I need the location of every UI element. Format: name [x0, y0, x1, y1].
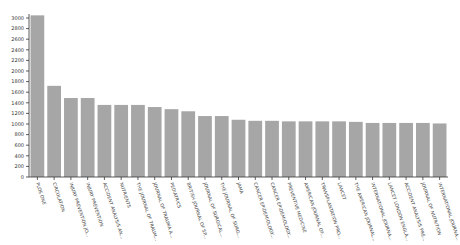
- x-tick-label: PLOS ONE: [35, 182, 47, 206]
- y-tick-label: 1000: [11, 121, 24, 127]
- bar[interactable]: [215, 116, 229, 177]
- bar[interactable]: [433, 123, 447, 177]
- bar[interactable]: [31, 15, 45, 177]
- bar[interactable]: [181, 111, 195, 177]
- bar[interactable]: [382, 123, 396, 177]
- x-axis: PLOS ONECIRCULATIONINJURY PREVENTION JO.…: [29, 177, 460, 242]
- y-tick-label: 800: [14, 131, 24, 137]
- y-tick-label: 1400: [11, 100, 24, 106]
- y-tick-label: 0: [21, 174, 24, 180]
- bars: [31, 15, 447, 177]
- bar[interactable]: [399, 123, 413, 177]
- y-tick-label: 1600: [11, 89, 24, 95]
- bar[interactable]: [232, 120, 246, 177]
- x-tick-label: JAMA: [236, 181, 245, 195]
- bar[interactable]: [131, 105, 145, 177]
- x-tick-label: CIRCULATION: [52, 182, 66, 213]
- bar[interactable]: [282, 121, 296, 177]
- bar-chart: 0200400600800100012001400160018002000220…: [0, 0, 460, 245]
- x-tick-label: PEDIATRICS: [169, 182, 182, 209]
- y-tick-label: 2200: [11, 57, 24, 63]
- bar[interactable]: [81, 98, 95, 177]
- bar[interactable]: [198, 116, 212, 177]
- bar[interactable]: [165, 109, 179, 177]
- bar[interactable]: [299, 121, 313, 177]
- y-tick-label: 600: [14, 142, 24, 148]
- bar[interactable]: [315, 121, 329, 177]
- x-tick-label: INJURY PREVENTION: [85, 182, 104, 228]
- chart-canvas: 0200400600800100012001400160018002000220…: [0, 0, 460, 245]
- y-tick-label: 400: [14, 153, 24, 159]
- bar[interactable]: [248, 121, 262, 177]
- y-tick-label: 1200: [11, 110, 24, 116]
- y-axis: 0200400600800100012001400160018002000220…: [11, 14, 29, 180]
- bar[interactable]: [416, 123, 430, 177]
- y-tick-label: 2600: [11, 36, 24, 42]
- bar[interactable]: [349, 122, 363, 177]
- x-tick-label: NUTRIENTS: [119, 182, 132, 209]
- bar[interactable]: [148, 107, 162, 177]
- bar[interactable]: [265, 121, 279, 177]
- y-tick-label: 1800: [11, 78, 24, 84]
- bar[interactable]: [98, 105, 112, 177]
- bar[interactable]: [366, 123, 380, 177]
- bar[interactable]: [114, 105, 128, 177]
- bar[interactable]: [64, 98, 78, 177]
- y-tick-label: 2000: [11, 68, 24, 74]
- y-tick-label: 200: [14, 163, 24, 169]
- y-tick-label: 2800: [11, 25, 24, 31]
- bar[interactable]: [47, 86, 61, 177]
- y-tick-label: 3000: [11, 15, 24, 21]
- y-tick-label: 2400: [11, 47, 24, 53]
- x-tick-label: LANCET: [337, 182, 347, 201]
- bar[interactable]: [332, 121, 346, 177]
